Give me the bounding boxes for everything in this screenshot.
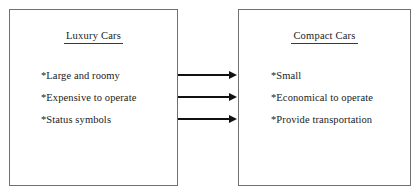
arrow-head [229,93,237,101]
arrow-shaft [178,74,231,76]
list-item-label: Economical to operate [276,92,373,103]
comparison-diagram: Luxury Cars *Large and roomy *Expensive … [0,0,419,194]
list-item: *Provide transportation [271,114,373,125]
left-box-title-text: Luxury Cars [64,30,123,44]
list-item-label: Large and roomy [46,70,120,81]
arrow-head [229,115,237,123]
list-item-label: Expensive to operate [46,92,136,103]
left-box-title: Luxury Cars [10,30,177,44]
arrow-right-icon [178,92,237,101]
list-item: *Small [271,70,373,81]
list-item-label: Provide transportation [276,114,372,125]
list-item: *Large and roomy [41,70,136,81]
list-item: *Status symbols [41,114,136,125]
left-concept-box: Luxury Cars *Large and roomy *Expensive … [9,9,178,186]
arrow-shaft [178,118,231,120]
arrow-head [229,71,237,79]
left-box-bullet-list: *Large and roomy *Expensive to operate *… [41,70,136,136]
arrow-shaft [178,96,231,98]
list-item-label: Small [276,70,301,81]
right-box-title: Compact Cars [239,30,410,44]
list-item: *Expensive to operate [41,92,136,103]
list-item-label: Status symbols [46,114,111,125]
arrow-right-icon [178,114,237,123]
right-concept-box: Compact Cars *Small *Economical to opera… [238,9,411,186]
right-box-title-text: Compact Cars [291,30,357,44]
right-box-bullet-list: *Small *Economical to operate *Provide t… [271,70,373,136]
arrow-right-icon [178,70,237,79]
list-item: *Economical to operate [271,92,373,103]
